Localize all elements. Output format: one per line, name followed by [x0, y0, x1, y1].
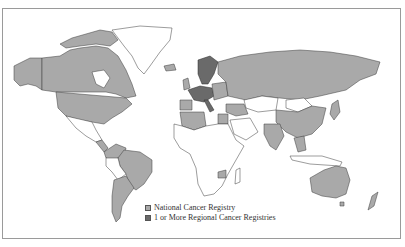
- region-middle-east: [226, 104, 248, 116]
- legend-item-national: National Cancer Registry: [145, 203, 276, 213]
- region-india: [264, 124, 284, 150]
- region-africa: [174, 124, 244, 196]
- region-madagascar: [235, 168, 240, 184]
- region-australia: [310, 166, 350, 198]
- region-alaska: [14, 58, 42, 90]
- region-china: [276, 106, 326, 138]
- region-japan: [330, 100, 340, 120]
- region-italy: [204, 100, 214, 112]
- legend-label: National Cancer Registry: [154, 203, 235, 213]
- region-eastern-europe: [212, 82, 228, 100]
- region-new-zealand: [368, 192, 378, 210]
- region-western-europe: [188, 86, 214, 102]
- region-scandinavia: [198, 56, 218, 84]
- legend-swatch-regional: [145, 215, 151, 221]
- region-iberia: [180, 100, 192, 110]
- legend-swatch-national: [145, 205, 151, 211]
- legend: National Cancer Registry 1 or More Regio…: [145, 203, 276, 223]
- region-argentina-chile: [112, 176, 134, 222]
- region-central-america: [96, 140, 108, 152]
- region-iceland: [164, 64, 176, 71]
- region-russia: [218, 50, 380, 100]
- region-tasmania: [340, 202, 344, 206]
- legend-item-regional: 1 or More Regional Cancer Registries: [145, 213, 276, 223]
- legend-label: 1 or More Regional Cancer Registries: [154, 213, 276, 223]
- region-indonesia: [290, 156, 342, 166]
- region-southeast-asia: [294, 136, 306, 152]
- region-canada: [42, 46, 136, 98]
- region-arctic-islands: [60, 30, 118, 48]
- region-egypt: [218, 114, 228, 124]
- region-usa: [56, 92, 132, 124]
- region-uk: [183, 78, 190, 90]
